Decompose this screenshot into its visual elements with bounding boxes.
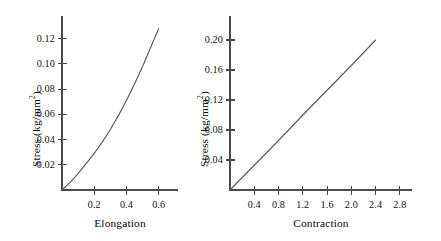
x-tick-label: 0.4 bbox=[248, 200, 261, 210]
y-tick-label: 0.08 bbox=[22, 84, 55, 94]
y-tick-label: 0.16 bbox=[190, 65, 223, 75]
chart-panel-elongation: Stress (kg/mm2) Elongation 0.020.040.060… bbox=[0, 0, 200, 241]
x-tick-label: 0.2 bbox=[88, 200, 101, 210]
data-series-stress-contraction bbox=[230, 40, 376, 190]
figure-container: Stress (kg/mm2) Elongation 0.020.040.060… bbox=[0, 0, 441, 241]
y-tick-label: 0.10 bbox=[22, 59, 55, 69]
x-tick-label: 2.8 bbox=[393, 200, 406, 210]
y-axis-title-left-exponent: 2 bbox=[28, 95, 37, 99]
chart-panel-contraction: Stress (kg/mm2) Contraction 0.040.080.12… bbox=[180, 0, 441, 241]
y-tick-label: 0.08 bbox=[190, 125, 223, 135]
y-axis-title-left: Stress (kg/mm2) bbox=[30, 91, 42, 167]
y-tick-label: 0.12 bbox=[190, 95, 223, 105]
x-tick-label: 0.6 bbox=[152, 200, 165, 210]
x-tick-label: 1.2 bbox=[296, 200, 309, 210]
x-tick-label: 0.4 bbox=[120, 200, 133, 210]
y-tick-label: 0.04 bbox=[190, 155, 223, 165]
x-tick-label: 2.0 bbox=[345, 200, 358, 210]
x-tick-label: 0.8 bbox=[272, 200, 285, 210]
x-axis-title-right: Contraction bbox=[293, 217, 348, 229]
y-tick-label: 0.20 bbox=[190, 35, 223, 45]
y-tick-label: 0.06 bbox=[22, 109, 55, 119]
y-tick-label: 0.02 bbox=[22, 160, 55, 170]
data-series-stress-elongation bbox=[62, 29, 159, 190]
x-tick-label: 2.4 bbox=[369, 200, 382, 210]
y-tick-label: 0.04 bbox=[22, 134, 55, 144]
x-tick-label: 1.6 bbox=[321, 200, 334, 210]
x-axis-title-left: Elongation bbox=[94, 217, 145, 229]
y-tick-label: 0.12 bbox=[22, 34, 55, 44]
